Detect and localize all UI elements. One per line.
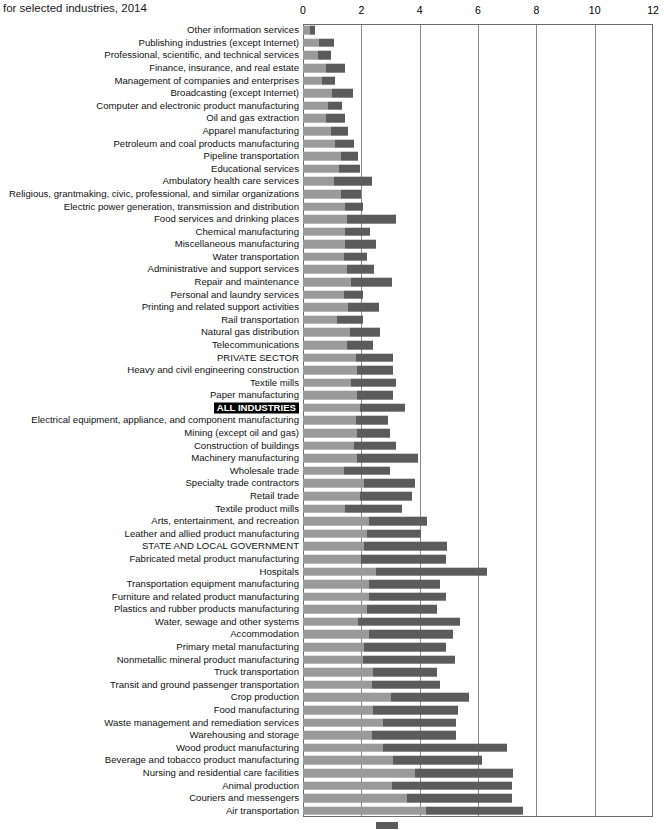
bar-rows: Other information servicesPublishing ind… [0, 24, 664, 817]
bar-segment-b [347, 341, 373, 350]
bar-row-label: Nonmetallic mineral product manufacturin… [117, 655, 299, 665]
bar-segment-a [303, 102, 328, 111]
bar-segment-b [351, 278, 392, 287]
bar-row: Publishing industries (except Internet) [0, 37, 664, 50]
bar-row: Petroleum and coal products manufacturin… [0, 137, 664, 150]
bar-row: Telecommunications [0, 339, 664, 352]
bar-row-label: Natural gas distribution [201, 327, 299, 337]
stacked-bar [303, 668, 437, 677]
stacked-bar [303, 643, 446, 652]
stacked-bar [303, 404, 405, 413]
bar-segment-b [357, 391, 393, 400]
bar-row-label: Leather and allied product manufacturing [125, 529, 299, 539]
stacked-bar [303, 391, 393, 400]
bar-row-label: Chemical manufacturing [196, 227, 299, 237]
stacked-bar [303, 429, 390, 438]
stacked-bar [303, 290, 363, 299]
bar-segment-b [383, 743, 507, 752]
bar-segment-b [376, 567, 487, 576]
x-tick-2: 2 [358, 4, 364, 16]
bar-row-label: Rail transportation [221, 315, 299, 325]
bar-row-label: Machinery manufacturing [191, 453, 299, 463]
bar-row: Miscellaneous manufacturing [0, 238, 664, 251]
legend [0, 820, 664, 830]
bar-row-label: Broadcasting (except Internet) [170, 88, 299, 98]
stacked-bar [303, 781, 512, 790]
stacked-bar [303, 114, 345, 123]
stacked-bar [303, 215, 396, 224]
stacked-bar [303, 492, 412, 501]
stacked-bar [303, 454, 418, 463]
stacked-bar [303, 416, 388, 425]
bar-row-label: Food manufacturing [214, 705, 299, 715]
x-tick-8: 8 [533, 4, 539, 16]
bar-row: Arts, entertainment, and recreation [0, 515, 664, 528]
bar-segment-a [303, 177, 334, 186]
bar-row-label: Accommodation [230, 629, 299, 639]
stacked-bar [303, 718, 456, 727]
bar-row: Water transportation [0, 251, 664, 264]
bar-segment-a [303, 706, 373, 715]
bar-row: Nursing and residential care facilities [0, 767, 664, 780]
bar-segment-a [303, 215, 347, 224]
bar-segment-a [303, 303, 348, 312]
stacked-bar [303, 542, 447, 551]
bar-row: Oil and gas extraction [0, 112, 664, 125]
bar-row-label: Construction of buildings [194, 441, 299, 451]
bar-row-label: Personal and laundry services [170, 290, 299, 300]
bar-row: Religious, grantmaking, civic, professio… [0, 188, 664, 201]
bar-row-label: Publishing industries (except Internet) [138, 38, 299, 48]
bar-segment-b [347, 215, 397, 224]
bar-row-label: Warehousing and storage [189, 730, 299, 740]
bar-segment-a [303, 253, 344, 262]
stacked-bar [303, 64, 345, 73]
bar-segment-a [303, 806, 426, 815]
bar-row: Water, sewage and other systems [0, 616, 664, 629]
bar-row-label: Water transportation [212, 252, 299, 262]
bar-row: Pipeline transportation [0, 150, 664, 163]
bar-row-label: Wood product manufacturing [176, 743, 299, 753]
bar-segment-b [383, 718, 456, 727]
bar-row: Electrical equipment, appliance, and com… [0, 414, 664, 427]
bar-segment-b [360, 492, 413, 501]
x-axis-tick-labels: 024681012 [303, 4, 663, 20]
bar-row: Transit and ground passenger transportat… [0, 679, 664, 692]
bar-row-label: Pipeline transportation [204, 151, 299, 161]
x-tick-10: 10 [589, 4, 601, 16]
stacked-bar [303, 706, 458, 715]
stacked-bar [303, 529, 421, 538]
bar-row: Retail trade [0, 490, 664, 503]
bar-segment-a [303, 315, 337, 324]
bar-segment-a [303, 265, 347, 274]
bar-segment-a [303, 794, 407, 803]
bar-segment-b [345, 240, 376, 249]
bar-row-label: Religious, grantmaking, civic, professio… [9, 189, 299, 199]
bar-segment-b [357, 429, 391, 438]
bar-segment-b [363, 655, 455, 664]
bar-row: ALL INDUSTRIES [0, 402, 664, 415]
bar-segment-b [326, 114, 345, 123]
bar-row-label: ALL INDUSTRIES [214, 402, 299, 413]
bar-segment-b [393, 756, 482, 765]
bar-row-label: Miscellaneous manufacturing [175, 239, 299, 249]
bar-row-label: Hospitals [260, 567, 299, 577]
bar-segment-a [303, 618, 358, 627]
bar-segment-b [391, 693, 470, 702]
stacked-bar [303, 164, 360, 173]
bar-row-label: Specialty trade contractors [185, 478, 299, 488]
bar-row: Transportation equipment manufacturing [0, 578, 664, 591]
bar-segment-b [357, 454, 418, 463]
bar-segment-a [303, 441, 354, 450]
bar-segment-b [345, 504, 402, 513]
bar-row: Heavy and civil engineering construction [0, 364, 664, 377]
stacked-bar [303, 341, 373, 350]
bar-row: Air transportation [0, 804, 664, 817]
bar-row-label: Plastics and rubber products manufacturi… [114, 604, 299, 614]
bar-segment-a [303, 643, 364, 652]
stacked-bar [303, 89, 353, 98]
bar-segment-a [303, 429, 357, 438]
stacked-bar [303, 202, 363, 211]
stacked-bar [303, 353, 393, 362]
bar-segment-b [364, 542, 447, 551]
stacked-bar [303, 26, 315, 35]
